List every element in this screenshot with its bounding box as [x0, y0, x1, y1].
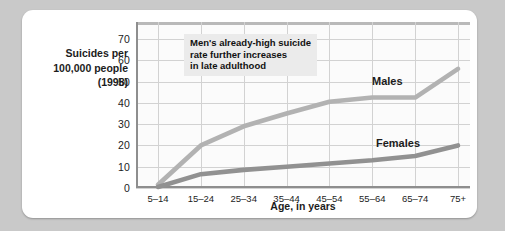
y-axis-label: Suicides per 100,000 people (1998) — [28, 46, 128, 90]
chart-area: Suicides per 100,000 people (1998) 01020… — [22, 10, 477, 218]
figure-root: Suicides per 100,000 people (1998) 01020… — [0, 0, 505, 231]
chart-card: Suicides per 100,000 people (1998) 01020… — [22, 10, 477, 218]
series-label-females: Females — [376, 137, 420, 149]
y-axis-tick-label: 0 — [124, 182, 130, 194]
y-axis-tick-label: 20 — [118, 139, 130, 151]
y-axis-tick-label: 60 — [118, 54, 130, 66]
y-axis-tick-label: 30 — [118, 118, 130, 130]
y-axis-label-line-3: (1998) — [28, 75, 128, 90]
gridline-horizontal — [136, 188, 470, 189]
y-axis-tick-label: 70 — [118, 33, 130, 45]
x-axis-label: Age, in years — [136, 200, 470, 212]
y-axis-tick-label: 10 — [118, 161, 130, 173]
y-axis-tick-label: 40 — [118, 97, 130, 109]
y-axis-label-line-2: 100,000 people — [28, 61, 128, 76]
plot-area: 010203040506070 5–1415–2425–3435–4445–54… — [136, 22, 470, 188]
chart-annotation: Men's already-high suicide rate further … — [184, 34, 317, 76]
y-axis-tick-label: 50 — [118, 76, 130, 88]
y-axis-label-line-1: Suicides per — [28, 46, 128, 61]
series-line-females — [158, 145, 458, 187]
series-label-males: Males — [372, 75, 403, 87]
